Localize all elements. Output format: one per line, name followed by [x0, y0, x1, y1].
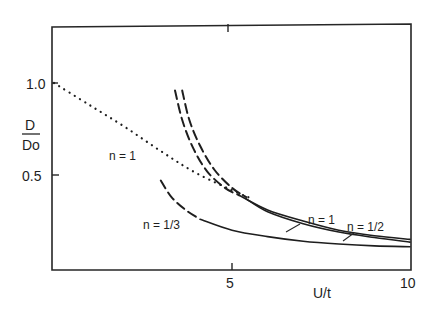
y-axis-label-numerator: D	[25, 117, 35, 133]
ticks	[52, 24, 232, 270]
curve-label-n1-dotted: n = 1	[109, 149, 136, 163]
curve-label-n1-2: n = 1/2	[347, 220, 384, 234]
x-tick-label-5: 5	[226, 275, 234, 291]
curve-0	[54, 83, 253, 199]
x-tick-label-10: 10	[400, 275, 416, 291]
y-tick-label-0.5: 0.5	[22, 168, 42, 184]
y-tick-label-1: 1.0	[26, 76, 46, 92]
y-axis-label-denominator: Do	[22, 137, 40, 153]
leader-line-n1	[286, 224, 300, 232]
x-axis-label: U/t	[313, 285, 331, 301]
chart: 1.0 0.5 5 10 D Do U/t n = 1 n = 1/3 n = …	[0, 0, 439, 317]
curve-label-n1-3: n = 1/3	[143, 218, 180, 232]
curve-1	[175, 90, 239, 195]
curve-5	[161, 181, 200, 220]
curve-label-n1-solid: n = 1	[308, 213, 335, 227]
